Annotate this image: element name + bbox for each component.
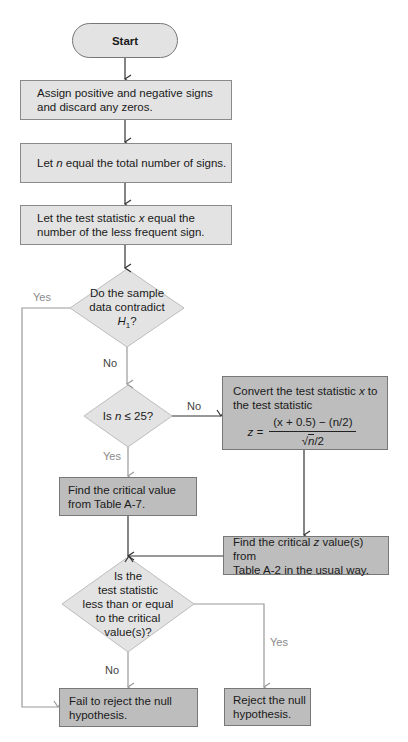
outcome-text: hypothesis. bbox=[233, 707, 310, 721]
step-text: Find the critical z value(s) from bbox=[233, 535, 388, 563]
label-n-no: No bbox=[187, 400, 201, 412]
step-text: the test statistic bbox=[233, 398, 387, 412]
label-n-yes: Yes bbox=[103, 450, 121, 462]
step-text: Convert the test statistic x to bbox=[233, 384, 387, 398]
outcome-reject: Reject the null hypothesis. bbox=[224, 688, 311, 726]
step-convert-z: Convert the test statistic x to the test… bbox=[222, 376, 388, 450]
outcome-text: Fail to reject the null bbox=[69, 694, 197, 708]
label-contradict-yes: Yes bbox=[33, 291, 51, 303]
step-text: Assign positive and negative signs bbox=[37, 86, 231, 100]
step-text: Let the test statistic x equal the bbox=[37, 211, 231, 225]
step-text: and discard any zeros. bbox=[37, 100, 231, 114]
step-text: number of the less frequent sign. bbox=[37, 225, 231, 239]
step-assign-signs: Assign positive and negative signs and d… bbox=[20, 80, 232, 120]
step-text: Find the critical value bbox=[68, 483, 196, 497]
label-compare-no: No bbox=[105, 664, 119, 676]
step-let-n: Let n equal the total number of signs. bbox=[20, 143, 232, 183]
step-let-x: Let the test statistic x equal the numbe… bbox=[20, 205, 232, 245]
decision-n-text: Is n ≤ 25? bbox=[84, 409, 172, 423]
outcome-text: Reject the null bbox=[233, 693, 310, 707]
outcome-fail-to-reject: Fail to reject the null hypothesis. bbox=[59, 688, 198, 727]
step-text: from Table A-7. bbox=[68, 497, 196, 511]
start-terminal: Start bbox=[72, 23, 178, 58]
label-contradict-no: No bbox=[103, 357, 117, 369]
label-compare-yes: Yes bbox=[270, 636, 288, 648]
start-label: Start bbox=[112, 34, 138, 48]
decision-contradict-text: Do the sample data contradict H1? bbox=[77, 286, 177, 333]
step-find-critical-z: Find the critical z value(s) from Table … bbox=[223, 536, 389, 575]
step-find-critical-a7: Find the critical value from Table A-7. bbox=[59, 477, 197, 516]
z-formula: z = (x + 0.5) − (n/2) √n/2 bbox=[233, 415, 387, 448]
decision-compare-text: Is the test statistic less than or equal… bbox=[68, 569, 188, 639]
step-text: Table A-2 in the usual way. bbox=[233, 563, 388, 577]
step-text: Let n equal the total number of signs. bbox=[37, 156, 231, 170]
outcome-text: hypothesis. bbox=[69, 708, 197, 722]
